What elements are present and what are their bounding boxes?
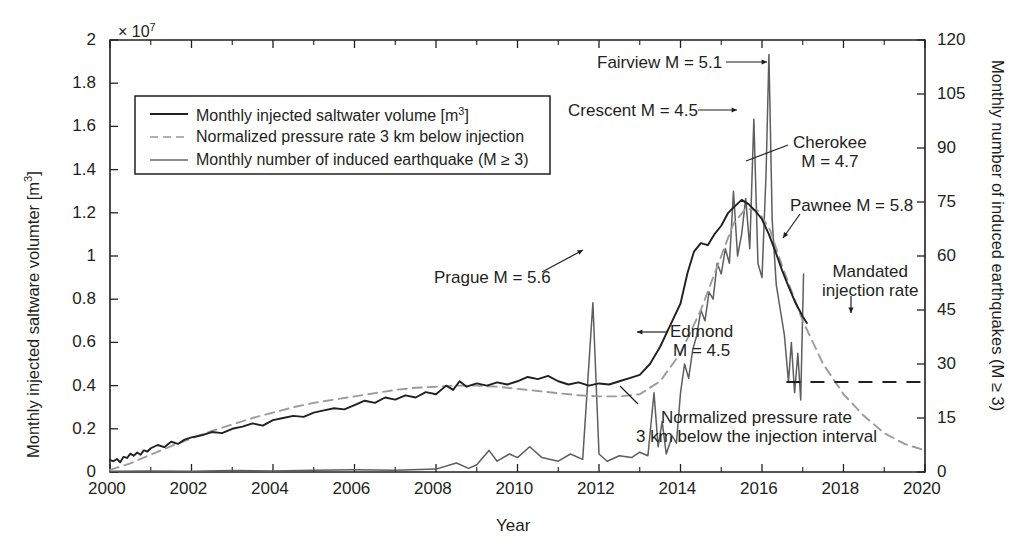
annotation-edmond: Edmond M = 4.5 — [670, 322, 733, 360]
x-tick-label: 2008 — [414, 479, 452, 498]
x-axis-title: Year — [496, 516, 530, 535]
y-left-tick-label: 0.8 — [0, 289, 96, 308]
annotation-edmond-line2: M = 4.5 — [670, 341, 733, 360]
x-tick-label: 2010 — [496, 479, 534, 498]
y-right-tick-label: 60 — [937, 246, 956, 265]
leader-pressure-note — [620, 386, 638, 404]
x-tick-label: 2000 — [88, 479, 126, 498]
y-right-tick-label: 45 — [937, 300, 956, 319]
y-left-tick-label: 2 — [0, 30, 96, 49]
y-right-tick-label: 15 — [937, 408, 956, 427]
leader-crescent-head — [732, 107, 737, 112]
x-tick-label: 2002 — [170, 479, 208, 498]
x-tick-label: 2004 — [251, 479, 289, 498]
y-left-tick-label: 0.6 — [0, 332, 96, 351]
y-left-tick-label: 1.6 — [0, 116, 96, 135]
y-left-tick-label: 1 — [0, 246, 96, 265]
x-tick-label: 2014 — [659, 479, 697, 498]
x-tick-label: 2016 — [740, 479, 778, 498]
annotation-mandated-line2: injection rate — [822, 281, 918, 300]
annotation-cherokee: Cherokee M = 4.7 — [793, 133, 867, 171]
x-tick-label: 2018 — [822, 479, 860, 498]
annotation-pressure-line2: 3 km below the injection interval — [636, 427, 877, 446]
leader-mandated-head — [848, 308, 853, 313]
annotation-mandated-line1: Mandated — [822, 262, 918, 281]
annotation-pressure-note: Normalized pressure rate 3 km below the … — [636, 408, 877, 446]
x-tick-label: 2006 — [333, 479, 371, 498]
y-axis-right-title: Monthly number of induced earthquakes (M… — [989, 60, 1007, 411]
annotation-pawnee: Pawnee M = 5.8 — [790, 196, 913, 215]
y-right-tick-label: 75 — [937, 192, 956, 211]
leader-pawnee-head — [783, 232, 788, 238]
annotation-cherokee-line2: M = 4.7 — [793, 152, 867, 171]
x-tick-label: 2020 — [903, 479, 941, 498]
leader-fairview-head — [762, 59, 767, 64]
y-right-tick-label: 30 — [937, 354, 956, 373]
annotation-cherokee-line1: Cherokee — [793, 133, 867, 152]
y-left-tick-label: 0 — [0, 462, 96, 481]
y-left-tick-label: 0.4 — [0, 376, 96, 395]
legend-item-pressure-label: Normalized pressure rate 3 km below inje… — [196, 128, 524, 146]
y-axis-left-exponent: × 107 — [118, 21, 156, 41]
y-left-tick-label: 0.2 — [0, 419, 96, 438]
annotation-edmond-line1: Edmond — [670, 322, 733, 341]
annotation-fairview: Fairview M = 5.1 — [597, 53, 722, 72]
y-left-tick-label: 1.4 — [0, 160, 96, 179]
chart-figure: × 107 Monthly injected saltware volumter… — [0, 0, 1024, 550]
legend-item-quakes-label: Monthly number of induced earthquake (M … — [196, 151, 529, 169]
y-left-tick-label: 1.2 — [0, 203, 96, 222]
y-right-tick-label: 120 — [937, 30, 965, 49]
legend-item-volume-label: Monthly injected saltwater volume [m3] — [196, 105, 469, 125]
y-right-tick-label: 0 — [937, 462, 946, 481]
y-right-tick-label: 105 — [937, 84, 965, 103]
annotation-crescent: Crescent M = 4.5 — [568, 101, 698, 120]
x-tick-label: 2012 — [577, 479, 615, 498]
annotation-pressure-line1: Normalized pressure rate — [636, 408, 877, 427]
annotation-prague: Prague M = 5.6 — [434, 268, 551, 287]
annotation-mandated-injection-rate: Mandated injection rate — [822, 262, 918, 300]
y-left-tick-label: 1.8 — [0, 73, 96, 92]
y-right-tick-label: 90 — [937, 138, 956, 157]
leader-edmond-head — [637, 329, 642, 334]
